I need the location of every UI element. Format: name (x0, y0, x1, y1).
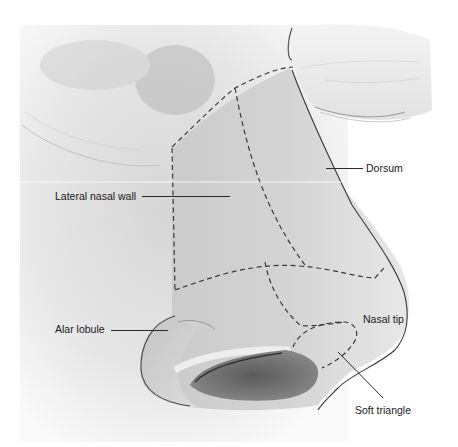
label-lateral-nasal-wall: Lateral nasal wall (55, 190, 136, 202)
label-nasal-tip: Nasal tip (363, 313, 404, 325)
label-soft-triangle: Soft triangle (355, 404, 411, 416)
label-alar-lobule: Alar lobule (55, 323, 105, 335)
lateral-nasal-wall-leader (142, 196, 230, 197)
dorsum-leader (326, 168, 363, 169)
nose-anatomy-figure: Lateral nasal wall Dorsum Alar lobule Na… (0, 0, 458, 447)
alar-lobule-leader (111, 330, 168, 331)
nose-illustration (0, 0, 458, 447)
label-dorsum: Dorsum (366, 162, 403, 174)
